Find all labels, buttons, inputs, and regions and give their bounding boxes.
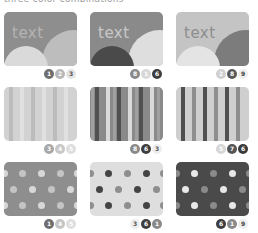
stripe — [9, 87, 13, 141]
polka-dot — [48, 186, 55, 193]
combination-card-dots[interactable] — [4, 162, 77, 216]
polka-dot — [153, 186, 160, 193]
stripe — [128, 87, 132, 141]
polka-dot — [115, 186, 122, 193]
stripe — [225, 87, 229, 141]
polka-dot — [57, 170, 64, 177]
stripe — [53, 87, 57, 141]
polka-dot — [246, 202, 249, 209]
polka-dot — [19, 202, 26, 209]
color-swatch-7[interactable]: 7 — [227, 144, 237, 154]
polka-dot — [143, 202, 150, 209]
polka-dot — [105, 170, 112, 177]
color-swatch-6[interactable]: 6 — [152, 69, 162, 79]
polka-dot — [67, 186, 74, 193]
color-swatch-6[interactable]: 6 — [238, 144, 248, 154]
polka-dot — [182, 186, 189, 193]
polka-dot — [4, 202, 8, 209]
polka-dot — [57, 202, 64, 209]
color-swatch-3[interactable]: 3 — [130, 219, 140, 229]
color-swatch-5[interactable]: 5 — [216, 144, 226, 154]
combination-card-circles[interactable]: text — [176, 12, 249, 66]
small-circle-shape — [4, 46, 48, 66]
polka-dot — [38, 170, 45, 177]
polka-dot — [90, 202, 94, 209]
polka-dot — [74, 170, 77, 177]
color-swatch-1[interactable]: 1 — [44, 69, 54, 79]
color-swatch-1[interactable]: 1 — [141, 69, 151, 79]
small-circle-shape — [90, 46, 134, 66]
color-swatch-5[interactable]: 5 — [66, 219, 76, 229]
sample-text: text — [184, 24, 216, 42]
stripe — [31, 87, 35, 141]
polka-dot — [143, 170, 150, 177]
color-swatch-1[interactable]: 1 — [152, 219, 162, 229]
color-swatch-group: 123 — [44, 69, 76, 79]
color-swatch-4[interactable]: 4 — [55, 144, 65, 154]
large-circle-shape — [42, 30, 77, 66]
polka-dot — [134, 186, 141, 193]
color-swatch-9[interactable]: 9 — [238, 69, 248, 79]
color-swatch-group: 289 — [216, 69, 248, 79]
large-circle-shape — [214, 30, 249, 66]
combination-card-dots[interactable] — [176, 162, 249, 216]
polka-dot — [124, 202, 131, 209]
stripe — [181, 87, 185, 141]
polka-dot — [176, 202, 180, 209]
stripe-light — [91, 87, 94, 141]
color-swatch-1[interactable]: 1 — [227, 219, 237, 229]
color-swatch-8[interactable]: 8 — [227, 69, 237, 79]
polka-dot — [124, 170, 131, 177]
polka-dot — [4, 170, 8, 177]
polka-dot — [19, 170, 26, 177]
polka-dot — [74, 202, 77, 209]
polka-dot — [160, 202, 163, 209]
stripe — [203, 87, 207, 141]
stripe — [20, 87, 24, 141]
stripe — [150, 87, 154, 141]
color-swatch-3[interactable]: 3 — [66, 69, 76, 79]
sample-text: text — [98, 24, 130, 42]
stripe-light — [157, 87, 160, 141]
color-swatch-6[interactable]: 6 — [141, 219, 151, 229]
color-swatch-3[interactable]: 3 — [152, 144, 162, 154]
combination-card-stripes[interactable] — [90, 87, 163, 141]
color-swatch-3[interactable]: 3 — [44, 144, 54, 154]
combination-card-circles[interactable]: text — [4, 12, 77, 66]
polka-dot — [229, 170, 236, 177]
color-swatch-2[interactable]: 2 — [55, 69, 65, 79]
combination-card-dots[interactable] — [90, 162, 163, 216]
color-swatch-group: 816 — [130, 69, 162, 79]
polka-dot — [90, 170, 94, 177]
section-title: three-color combinations — [4, 0, 124, 4]
color-swatch-8[interactable]: 8 — [130, 69, 140, 79]
color-swatch-5[interactable]: 5 — [66, 144, 76, 154]
color-swatch-8[interactable]: 8 — [130, 144, 140, 154]
color-swatch-group: 345 — [44, 144, 76, 154]
polka-dot — [191, 170, 198, 177]
polka-dot — [38, 202, 45, 209]
polka-dot — [220, 186, 227, 193]
combination-card-circles[interactable]: text — [90, 12, 163, 66]
color-swatch-group: 863 — [130, 144, 162, 154]
color-swatch-group: 145 — [44, 219, 76, 229]
color-swatch-1[interactable]: 1 — [44, 219, 54, 229]
color-swatch-2[interactable]: 2 — [216, 69, 226, 79]
stripe — [214, 87, 218, 141]
polka-dot — [160, 170, 163, 177]
stripe — [106, 87, 110, 141]
stripe — [139, 87, 143, 141]
combination-card-stripes[interactable] — [176, 87, 249, 141]
polka-dot — [10, 186, 17, 193]
color-swatch-6[interactable]: 6 — [141, 144, 151, 154]
polka-dot — [105, 202, 112, 209]
color-swatch-9[interactable]: 9 — [238, 219, 248, 229]
color-swatch-group: 576 — [216, 144, 248, 154]
stripe-light — [135, 87, 138, 141]
stripe — [117, 87, 121, 141]
color-swatch-6[interactable]: 6 — [216, 219, 226, 229]
color-swatch-4[interactable]: 4 — [55, 219, 65, 229]
stripe — [64, 87, 68, 141]
large-circle-shape — [128, 30, 163, 66]
combination-card-stripes[interactable] — [4, 87, 77, 141]
